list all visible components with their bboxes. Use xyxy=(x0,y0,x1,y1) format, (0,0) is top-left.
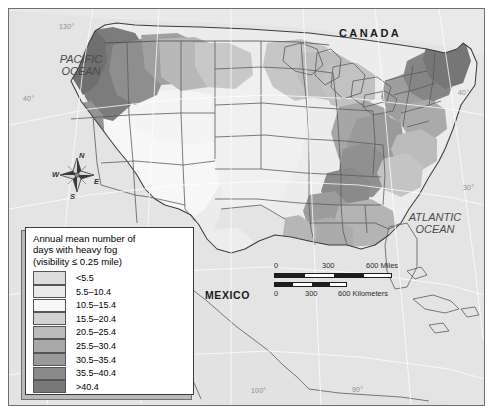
pacific-ocean-line1: PACIFIC xyxy=(31,53,131,65)
legend-row: 20.5–25.4 xyxy=(33,326,187,340)
legend-swatch xyxy=(33,312,66,325)
scale-miles-bar xyxy=(274,273,392,278)
legend-label: 25.5–30.4 xyxy=(76,341,116,351)
compass-rose: N W E S xyxy=(49,147,105,203)
legend-label: 5.5–10.4 xyxy=(76,287,111,297)
map-frame: PACIFIC OCEAN ATLANTIC OCEAN CANADA MEXI… xyxy=(8,8,485,406)
legend-row: <5.5 xyxy=(33,271,187,285)
legend-title-line1: Annual mean number of xyxy=(33,233,187,244)
legend-label: 10.5–15.4 xyxy=(76,300,116,310)
legend-title-line3: (visibility ≤ 0.25 mile) xyxy=(33,256,187,267)
compass-west-label: W xyxy=(52,170,59,179)
legend-label: <5.5 xyxy=(76,273,94,283)
legend-row: 15.5–20.4 xyxy=(33,312,187,326)
scale-miles-zero: 0 xyxy=(274,261,278,270)
scale-km-seg-1 xyxy=(275,283,293,286)
compass-south-label: S xyxy=(70,192,75,201)
legend-label: 35.5–40.4 xyxy=(76,368,116,378)
scale-miles-seg-1 xyxy=(275,274,305,277)
scale-km-seg-2 xyxy=(312,283,330,286)
graticule-label-90w: 90° xyxy=(352,386,363,393)
canada-label: CANADA xyxy=(339,27,401,39)
legend-row: 35.5–40.4 xyxy=(33,366,187,380)
legend-row: >40.4 xyxy=(33,380,187,394)
legend-row: 5.5–10.4 xyxy=(33,285,187,299)
scale-miles-max: 600 Miles xyxy=(366,261,398,270)
compass-north-label: N xyxy=(79,151,84,160)
legend-label: 20.5–25.4 xyxy=(76,327,116,337)
scale-miles-mid: 300 xyxy=(322,261,335,270)
legend-row: 10.5–15.4 xyxy=(33,298,187,312)
compass-east-label: E xyxy=(94,177,99,186)
legend-swatch xyxy=(33,380,66,393)
legend-swatch xyxy=(33,299,66,312)
graticule-label-100w: 100° xyxy=(251,387,266,394)
legend-swatch xyxy=(33,326,66,339)
legend-row: 30.5–35.4 xyxy=(33,353,187,367)
atlantic-ocean-line1: ATLANTIC xyxy=(389,211,481,223)
atlantic-ocean-label: ATLANTIC OCEAN xyxy=(389,211,481,235)
legend-label: >40.4 xyxy=(76,382,99,392)
legend-row: 25.5–30.4 xyxy=(33,339,187,353)
legend-swatch xyxy=(33,367,66,380)
graticule-label-130w: 130° xyxy=(59,23,74,30)
graticule-label-40n-east: 40° xyxy=(458,89,469,96)
scale-km-zero: 0 xyxy=(274,289,278,298)
legend-panel: Annual mean number of days with heavy fo… xyxy=(25,227,194,395)
legend-swatch xyxy=(33,285,66,298)
legend-label: 15.5–20.4 xyxy=(76,314,116,324)
legend-title: Annual mean number of days with heavy fo… xyxy=(33,233,187,267)
scale-km-mid: 300 xyxy=(305,289,318,298)
scale-km-bar xyxy=(274,282,347,287)
fog-map-figure: PACIFIC OCEAN ATLANTIC OCEAN CANADA MEXI… xyxy=(0,0,491,412)
graticule-label-30n: 30° xyxy=(463,184,474,191)
graticule-label-40n-west: 40° xyxy=(23,95,34,102)
legend-swatch xyxy=(33,353,66,366)
atlantic-ocean-line2: OCEAN xyxy=(389,223,481,235)
legend-title-line2: days with heavy fog xyxy=(33,244,187,255)
pacific-ocean-label: PACIFIC OCEAN xyxy=(31,53,131,77)
legend-swatch xyxy=(33,271,66,284)
scale-km-max: 600 Kilometers xyxy=(338,289,388,298)
scale-miles-seg-2 xyxy=(334,274,364,277)
legend-label: 30.5–35.4 xyxy=(76,355,116,365)
mexico-label: MEXICO xyxy=(205,289,250,301)
legend-class-list: <5.55.5–10.410.5–15.415.5–20.420.5–25.42… xyxy=(33,271,187,393)
scale-bar: 0 300 600 Miles 0 300 600 Kilometers xyxy=(274,261,402,303)
legend-swatch xyxy=(33,339,66,352)
pacific-ocean-line2: OCEAN xyxy=(31,65,131,77)
